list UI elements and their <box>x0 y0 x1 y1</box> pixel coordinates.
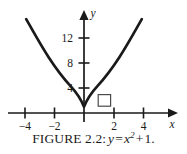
formula-exponent: 2 <box>130 130 135 140</box>
tangent-square-marker <box>98 95 110 107</box>
x-axis-label: x <box>168 118 175 130</box>
y-axis-label: y <box>89 7 96 20</box>
formula-plus: + <box>135 131 145 146</box>
plot-area: −4 −2 2 4 4 8 12 x y <box>0 0 187 132</box>
caption-formula: y=x2+1. <box>106 131 155 146</box>
figure-container: −4 −2 2 4 4 8 12 x y FIGURE 2.2:y=x2+1. <box>0 0 187 154</box>
y-axis-arrowhead <box>79 10 88 20</box>
y-tick-label-8: 8 <box>67 57 73 69</box>
x-axis-arrowhead <box>168 108 178 117</box>
caption-label: FIGURE 2.2: <box>32 131 106 146</box>
formula-constant: 1. <box>144 131 154 146</box>
figure-caption: FIGURE 2.2:y=x2+1. <box>0 131 187 147</box>
formula-equals: = <box>114 131 124 146</box>
parabola-plot: −4 −2 2 4 4 8 12 x y <box>0 0 187 132</box>
x-axis <box>8 108 178 117</box>
y-tick-label-12: 12 <box>62 32 74 44</box>
